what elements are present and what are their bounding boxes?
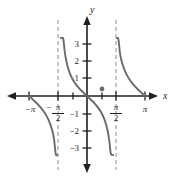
- x-tick-label-pos-half-pi: π 2: [110, 103, 122, 123]
- y-tick-label-3: 3: [69, 40, 79, 49]
- pos-half-pi-denominator: 2: [110, 114, 122, 123]
- y-axis-arrow-bottom: [83, 164, 90, 173]
- y-tick-label-neg-1: −1: [63, 110, 79, 119]
- x-tick-label-pi: π: [138, 105, 152, 114]
- pos-half-pi-numerator: π: [110, 103, 122, 112]
- tangent-function-figure: x y −π π − π 2 π 2 3 2 1 −1 −2 −3: [0, 0, 173, 177]
- y-tick-label-2: 2: [69, 57, 79, 66]
- x-axis-arrow-left: [7, 92, 16, 99]
- x-tick-label-neg-pi: −π: [21, 105, 39, 114]
- y-tick-label-neg-3: −3: [63, 144, 79, 153]
- y-axis-arrow-top: [83, 16, 90, 25]
- x-axis-arrow-right: [149, 92, 158, 99]
- y-tick-label-1: 1: [69, 74, 79, 83]
- tangent-branch-right: [117, 38, 145, 96]
- y-axis-label: y: [90, 5, 94, 15]
- y-tick-label-neg-2: −2: [63, 127, 79, 136]
- point-on-curve: [100, 87, 105, 92]
- x-axis-label: x: [163, 91, 167, 101]
- graph-canvas: [0, 0, 173, 177]
- neg-half-pi-minus-sign: −: [46, 103, 51, 112]
